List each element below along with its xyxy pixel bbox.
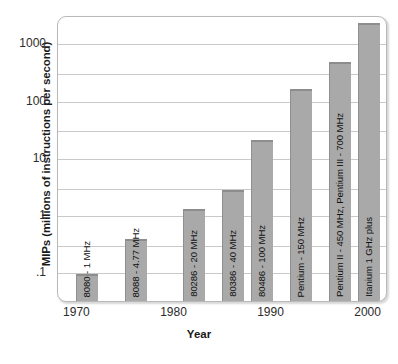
bars-layer: 8080 - 1 MHz8088 - 4.77 MHz80286 - 20 MH…: [58, 17, 386, 301]
bar: 8088 - 4.77 MHz: [125, 239, 147, 301]
bar-top-edge: [252, 140, 273, 142]
x-axis-title: Year: [0, 328, 398, 340]
bar: 80486 - 100 MHz: [251, 140, 273, 302]
bar-top-edge: [330, 62, 351, 64]
bar: 80386 - 40 MHz: [222, 190, 244, 301]
bar-label: 80286 - 20 MHz: [188, 230, 199, 297]
plot-area: 8080 - 1 MHz8088 - 4.77 MHz80286 - 20 MH…: [57, 16, 387, 302]
x-axis-tick-labels: 1970198019902000: [0, 305, 398, 327]
mips-bar-chart: MIPs (millions of instructions per secon…: [0, 0, 398, 364]
bar-label: Pentium II - 450 MHz, Pentium III - 700 …: [334, 113, 345, 297]
bar-label: Pentium - 150 MHz: [295, 217, 306, 297]
bar-top-edge: [291, 89, 312, 91]
bar: Itanium 1 GHz plus: [358, 23, 380, 301]
bar-top-edge: [359, 23, 380, 25]
bar-label: 80486 - 100 MHz: [256, 225, 267, 297]
bar: Pentium II - 450 MHz, Pentium III - 700 …: [329, 62, 351, 301]
x-axis-tick-label: 1990: [257, 305, 284, 319]
x-axis-tick-label: 2000: [354, 305, 381, 319]
bar-top-edge: [223, 190, 244, 192]
y-axis-tick-label: 1: [39, 208, 46, 222]
bar-label: Itanium 1 GHz plus: [363, 217, 374, 297]
bar: 8080 - 1 MHz: [76, 274, 98, 301]
bar-label: 8088 - 4.77 MHz: [130, 228, 141, 297]
x-axis-tick-label: 1980: [160, 305, 187, 319]
bar: 80286 - 20 MHz: [183, 209, 205, 301]
bar-label: 80386 - 40 MHz: [227, 230, 238, 297]
y-axis-tick-label: .1: [36, 265, 46, 279]
y-axis-tick-label: 100: [26, 94, 46, 108]
y-axis-tick-label: 10: [33, 151, 46, 165]
y-axis-tick-label: 1000: [19, 36, 46, 50]
bar-label: 8080 - 1 MHz: [81, 241, 92, 297]
bar: Pentium - 150 MHz: [290, 89, 312, 301]
bar-top-edge: [184, 209, 205, 211]
x-axis-tick-label: 1970: [63, 305, 90, 319]
